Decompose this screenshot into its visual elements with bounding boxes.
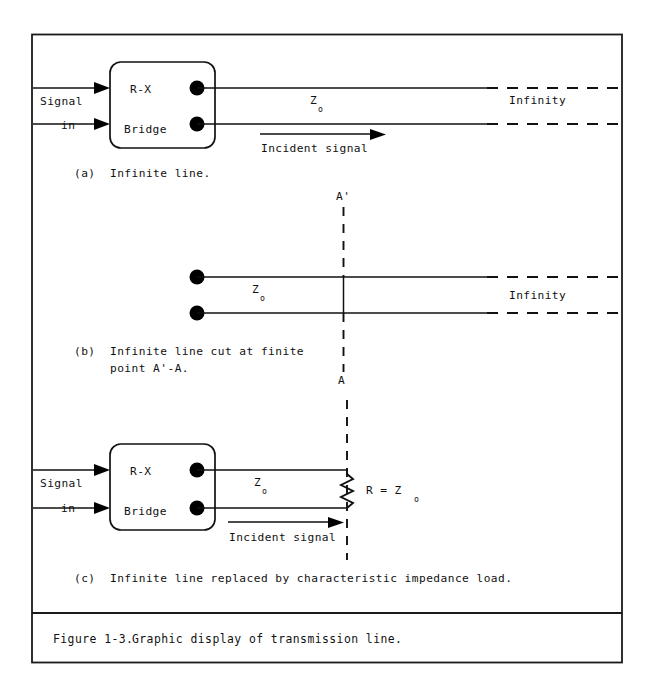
panel-c-incident-arrowhead xyxy=(328,517,344,528)
panel-c-load-subscript: o xyxy=(414,494,419,504)
panel-c-incident-label: Incident signal xyxy=(229,531,336,544)
panel-c-signal-in-bottom-arrowhead xyxy=(94,502,110,514)
panel-c-load-label: R = Z xyxy=(366,484,402,497)
panel-c-diagram: Signal in R-X Bridge R = Z o Z o xyxy=(33,400,512,585)
panel-b-diagram: A' A Z o Infinity (b) Infinite line cut … xyxy=(74,190,621,387)
panel-c-signal-in-top-arrowhead xyxy=(94,464,110,476)
panel-a-signal-in-label-line1: Signal xyxy=(40,95,83,108)
panel-c-signal-in-label-line1: Signal xyxy=(40,477,83,490)
figure-page: Signal in R-X Bridge Z o Infinity Incide xyxy=(0,0,652,690)
panel-c-caption-id: (c) xyxy=(74,572,96,585)
panel-c-signal-in-label-line2: in xyxy=(61,502,75,515)
panel-c-box-label-line2: Bridge xyxy=(124,505,167,518)
panel-b-cut-label-top: A' xyxy=(336,190,350,203)
figure-number: Figure 1-3. xyxy=(53,632,133,646)
panel-b-caption-line2: point A'-A. xyxy=(110,362,189,375)
panel-a-signal-in-top-arrowhead xyxy=(94,82,110,94)
panel-b-impedance-symbol: Z xyxy=(252,283,259,296)
panel-c-caption-text: Infinite line replaced by characteristic… xyxy=(110,572,512,585)
panel-a-incident-arrowhead xyxy=(370,129,386,140)
figure-caption-text: Graphic display of transmission line. xyxy=(132,632,402,646)
figure-caption-block: Figure 1-3. Graphic display of transmiss… xyxy=(53,632,402,646)
panel-a-caption-id: (a) xyxy=(74,167,96,180)
panel-b-caption-line1: Infinite line cut at finite xyxy=(110,345,304,358)
panel-c-impedance-subscript: o xyxy=(262,486,267,496)
transmission-line-figure: Signal in R-X Bridge Z o Infinity Incide xyxy=(0,0,652,690)
panel-a-box-label-line2: Bridge xyxy=(124,123,167,136)
panel-a-impedance-subscript: o xyxy=(318,104,323,114)
panel-a-signal-in-bottom-arrowhead xyxy=(94,118,110,130)
panel-a-caption-text: Infinite line. xyxy=(110,167,211,180)
panel-a-infinity-label: Infinity xyxy=(509,94,566,107)
panel-b-cut-label-bottom: A xyxy=(338,374,345,387)
panel-a-box-label-line1: R-X xyxy=(130,83,151,96)
panel-b-infinity-label: Infinity xyxy=(509,289,566,302)
panel-c-box-label-line1: R-X xyxy=(130,465,151,478)
panel-c-impedance-symbol: Z xyxy=(254,476,261,489)
panel-a-signal-in-label-line2: in xyxy=(61,119,75,132)
panel-b-caption-id: (b) xyxy=(74,345,96,358)
panel-b-impedance-subscript: o xyxy=(260,293,265,303)
panel-a-incident-label: Incident signal xyxy=(261,142,368,155)
panel-a-impedance-symbol: Z xyxy=(310,94,317,107)
panel-a-diagram: Signal in R-X Bridge Z o Infinity Incide xyxy=(33,62,621,180)
